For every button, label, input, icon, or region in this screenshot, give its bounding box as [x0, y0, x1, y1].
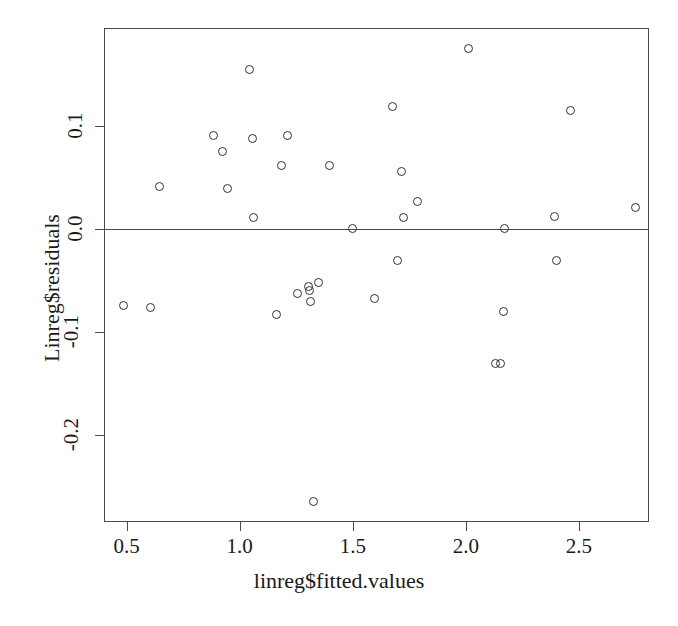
data-point: [209, 131, 218, 140]
data-point: [464, 44, 473, 53]
data-point: [248, 134, 257, 143]
y-tick-label: 0.1: [62, 113, 87, 139]
data-point: [314, 278, 323, 287]
data-point: [397, 167, 406, 176]
data-point: [325, 161, 334, 170]
x-tick-label: 2.5: [566, 534, 592, 559]
x-tick-label: 2.0: [453, 534, 479, 559]
data-point: [399, 213, 408, 222]
x-tick-label: 1.5: [340, 534, 366, 559]
x-axis-tick: [127, 522, 128, 531]
data-point: [309, 497, 318, 506]
y-tick-label-wrap: -0.2: [0, 421, 88, 449]
data-point: [631, 203, 640, 212]
y-tick-label: 0.0: [62, 216, 87, 242]
y-axis-tick: [95, 435, 104, 436]
y-axis-tick: [95, 126, 104, 127]
data-point: [370, 294, 379, 303]
x-axis-tick: [353, 522, 354, 531]
data-point: [499, 307, 508, 316]
x-axis-title: linreg$fitted.values: [0, 568, 678, 594]
x-axis-tick: [466, 522, 467, 531]
y-axis-tick: [95, 229, 104, 230]
data-point: [223, 184, 232, 193]
x-axis-tick: [240, 522, 241, 531]
data-point: [293, 289, 302, 298]
data-point: [249, 213, 258, 222]
zero-reference-line: [104, 229, 649, 230]
y-tick-label: -0.2: [59, 418, 84, 451]
data-point: [388, 102, 397, 111]
data-point: [245, 65, 254, 74]
x-tick-label: 0.5: [113, 534, 139, 559]
data-point: [550, 212, 559, 221]
data-point: [283, 131, 292, 140]
residual-scatter-plot: 0.10.0-0.1-0.2 0.51.01.52.02.5 Linreg$re…: [0, 0, 678, 626]
y-axis-title: Linreg$residuals: [39, 158, 65, 418]
y-axis-tick: [95, 332, 104, 333]
data-point: [500, 224, 509, 233]
plot-area-border: [104, 28, 649, 522]
x-axis-tick: [579, 522, 580, 531]
data-point: [155, 182, 164, 191]
data-point: [552, 256, 561, 265]
x-tick-label: 1.0: [227, 534, 253, 559]
y-tick-label-wrap: 0.1: [0, 112, 88, 140]
